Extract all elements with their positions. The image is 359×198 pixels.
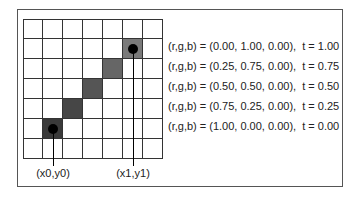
- end-point-label: (x1,y1): [116, 167, 150, 179]
- pixel-grid: [23, 19, 163, 159]
- grid-cell: [23, 99, 43, 119]
- grid-cell: [43, 59, 63, 79]
- grid-cell: [103, 19, 123, 39]
- grid-cell: [83, 119, 103, 139]
- legend-row: (r,g,b) = (0.25, 0.75, 0.00), t = 0.75: [168, 56, 339, 76]
- grid-cell: [43, 39, 63, 59]
- shaded-pixel: [63, 99, 83, 119]
- grid-cell: [143, 19, 163, 39]
- grid-cell: [103, 39, 123, 59]
- grid-cell: [103, 139, 123, 159]
- pointer-line: [53, 129, 54, 166]
- grid-cell: [63, 79, 83, 99]
- grid-cell: [123, 19, 143, 39]
- grid-cell: [23, 19, 43, 39]
- grid-cell: [43, 79, 63, 99]
- grid-cell: [23, 59, 43, 79]
- legend-row: (r,g,b) = (1.00, 0.00, 0.00), t = 0.00: [168, 116, 339, 136]
- grid-cell: [83, 39, 103, 59]
- shaded-pixel: [103, 59, 123, 79]
- grid-cell: [43, 19, 63, 39]
- shaded-pixel: [83, 79, 103, 99]
- grid-cell: [143, 119, 163, 139]
- grid-cell: [83, 99, 103, 119]
- legend-row: (r,g,b) = (0.50, 0.50, 0.00), t = 0.50: [168, 76, 339, 96]
- pointer-line: [133, 49, 134, 166]
- grid-cell: [83, 139, 103, 159]
- grid-cell: [143, 99, 163, 119]
- grid-cell: [43, 99, 63, 119]
- grid-cell: [23, 119, 43, 139]
- grid-cell: [83, 19, 103, 39]
- grid-cell: [103, 99, 123, 119]
- grid-cell: [23, 79, 43, 99]
- grid-cell: [103, 79, 123, 99]
- legend-row: (r,g,b) = (0.75, 0.25, 0.00), t = 0.25: [168, 96, 339, 116]
- grid-cell: [23, 39, 43, 59]
- grid-cell: [83, 59, 103, 79]
- grid-cell: [23, 139, 43, 159]
- grid-cell: [63, 19, 83, 39]
- grid-cell: [63, 139, 83, 159]
- color-legend: (r,g,b) = (0.00, 1.00, 0.00), t = 1.00 (…: [168, 36, 339, 136]
- grid-cell: [143, 139, 163, 159]
- grid-cell: [63, 39, 83, 59]
- start-point-label: (x0,y0): [36, 167, 70, 179]
- grid-cell: [143, 79, 163, 99]
- grid-cell: [143, 39, 163, 59]
- grid-cell: [63, 119, 83, 139]
- legend-row: (r,g,b) = (0.00, 1.00, 0.00), t = 1.00: [168, 36, 339, 56]
- grid-cell: [63, 59, 83, 79]
- grid-cell: [103, 119, 123, 139]
- grid-cell: [143, 59, 163, 79]
